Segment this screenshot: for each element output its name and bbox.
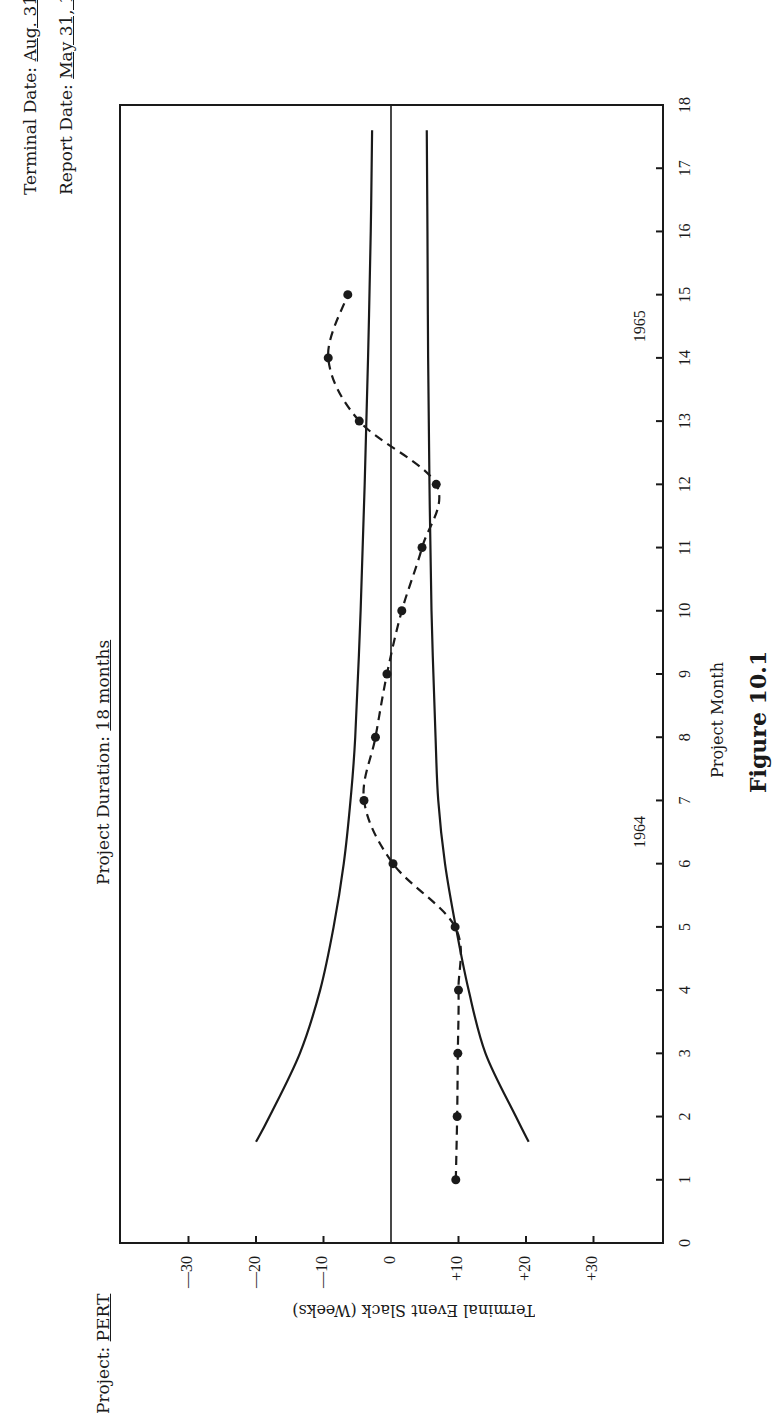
month-tick-label: 18 xyxy=(676,97,693,113)
axis-ticks xyxy=(189,168,664,1243)
slack-tick-label: —30 xyxy=(178,1256,195,1289)
month-tick-label: 8 xyxy=(676,733,693,741)
year-label: 1964 xyxy=(631,816,648,848)
month-tick-label: 6 xyxy=(676,860,693,868)
year-label: 1965 xyxy=(631,310,648,342)
month-tick-label: 15 xyxy=(676,287,693,303)
duration-value: 18 months xyxy=(93,640,113,731)
month-tick-label: 13 xyxy=(676,413,693,429)
slack-tick-label: +20 xyxy=(516,1256,533,1281)
month-tick-label: 3 xyxy=(676,1049,693,1057)
slack-tick-label: —10 xyxy=(313,1256,330,1289)
month-tick-label: 16 xyxy=(676,223,693,239)
x-axis-title: Project Month xyxy=(708,662,727,778)
report-date-header: Report Date: May 31, 1965 xyxy=(56,0,76,195)
lower-boundary-curve xyxy=(427,130,529,1142)
slack-tick-label: —20 xyxy=(246,1256,263,1289)
slack-tick-label: 0 xyxy=(381,1256,398,1264)
data-point-marker xyxy=(453,1049,462,1058)
data-point-marker xyxy=(343,290,352,299)
month-tick-label: 0 xyxy=(676,1239,693,1247)
report-date-value: May 31, 1965 xyxy=(56,0,76,79)
slack-tick-label: +30 xyxy=(583,1256,600,1281)
data-point-marker xyxy=(324,353,333,362)
month-tick-label: 11 xyxy=(676,540,693,555)
data-point-marker xyxy=(451,1175,460,1184)
slack-tick-label: +10 xyxy=(448,1256,465,1281)
month-tick-label: 5 xyxy=(676,923,693,931)
axis-labels: 0123456789101112131415161718—30—20—100+1… xyxy=(178,97,693,1289)
data-point-marker xyxy=(355,417,364,426)
month-tick-label: 2 xyxy=(676,1113,693,1121)
upper-boundary-curve xyxy=(256,130,372,1142)
project-value: PERT xyxy=(93,1294,113,1342)
pert-slack-chart: 0123456789101112131415161718—30—20—100+1… xyxy=(0,0,783,1414)
month-tick-label: 10 xyxy=(676,603,693,619)
project-label: Project: xyxy=(93,1347,113,1414)
duration-label: Project Duration: xyxy=(93,736,113,885)
data-point-marker xyxy=(432,480,441,489)
month-tick-label: 14 xyxy=(676,350,693,366)
project-header: Project: PERT xyxy=(93,1294,113,1414)
data-point-marker xyxy=(360,796,369,805)
month-tick-label: 9 xyxy=(676,670,693,678)
data-point-marker xyxy=(454,986,463,995)
data-point-marker xyxy=(382,670,391,679)
month-tick-label: 12 xyxy=(676,476,693,492)
y-axis-title: Terminal Event Slack (Weeks) xyxy=(292,1301,535,1320)
figure-caption: Figure 10.1 xyxy=(745,651,771,793)
data-point-marker xyxy=(397,606,406,615)
data-point-marker xyxy=(453,1112,462,1121)
data-point-marker xyxy=(389,859,398,868)
terminal-date-value: Aug. 31, 1965 xyxy=(20,0,40,62)
duration-header: Project Duration: 18 months xyxy=(93,640,113,885)
month-tick-label: 7 xyxy=(676,796,693,804)
control-boundaries xyxy=(256,130,529,1142)
slack-dashed-line xyxy=(328,295,461,1180)
data-point-marker xyxy=(371,733,380,742)
month-tick-label: 1 xyxy=(676,1176,693,1184)
terminal-date-header: Terminal Date: Aug. 31, 1965 xyxy=(20,0,40,195)
data-point-marker xyxy=(418,543,427,552)
terminal-date-label: Terminal Date: xyxy=(20,67,40,195)
month-tick-label: 4 xyxy=(676,986,693,994)
slack-series xyxy=(324,290,463,1184)
month-tick-label: 17 xyxy=(676,160,693,176)
report-date-label: Report Date: xyxy=(56,84,76,195)
data-point-marker xyxy=(451,922,460,931)
